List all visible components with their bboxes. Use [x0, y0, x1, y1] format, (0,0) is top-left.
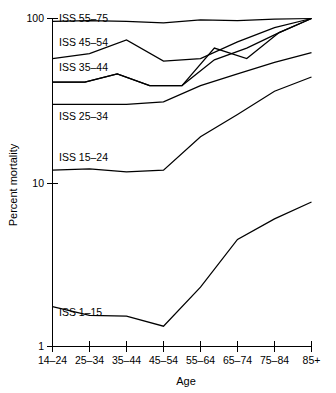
x-tick-label-3: 45–54 [149, 354, 178, 366]
chart-figure: 100 10 1 14–24 25–34 35–44 45–54 55–64 6… [0, 0, 336, 393]
x-tick-label-5: 65–74 [223, 354, 252, 366]
x-tick-label-6: 75–84 [260, 354, 289, 366]
series-label-0: ISS 55–75 [59, 12, 108, 24]
series-label-2: ISS 35–44 [59, 61, 108, 73]
x-tick-label-7: 85+ [303, 354, 321, 366]
series-labels-group: ISS 55–75ISS 45–54ISS 35–44ISS 25–34ISS … [59, 12, 108, 318]
series-label-4: ISS 25–34 [59, 110, 108, 122]
series-label-1: ISS 45–54 [59, 36, 108, 48]
series-label-5: ISS 15–24 [59, 151, 108, 163]
x-tick-label-1: 25–34 [75, 354, 104, 366]
x-tick-labels: 14–24 25–34 35–44 45–54 55–64 65–74 75–8… [38, 354, 321, 366]
y-tick-label-1: 1 [38, 340, 44, 352]
series-label-6: ISS 1–15 [59, 306, 102, 318]
y-axis-title: Percent mortality [7, 143, 19, 226]
x-tick-label-4: 55–64 [186, 354, 215, 366]
chart-svg: 100 10 1 14–24 25–34 35–44 45–54 55–64 6… [0, 0, 336, 393]
x-axis-title: Age [176, 375, 196, 387]
x-tick-label-0: 14–24 [38, 354, 67, 366]
y-tick-label-100: 100 [26, 12, 44, 24]
x-tick-label-2: 35–44 [112, 354, 141, 366]
y-tick-label-10: 10 [32, 177, 44, 189]
